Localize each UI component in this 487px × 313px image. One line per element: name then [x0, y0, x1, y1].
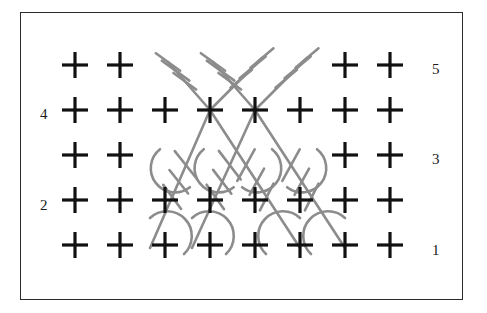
single-crochet-cross-icon [377, 97, 403, 123]
single-crochet-cross-icon [377, 52, 403, 78]
single-crochet-cross-icon [107, 52, 133, 78]
row-label-4: 4 [40, 107, 48, 122]
row-label-2: 2 [40, 198, 48, 213]
single-crochet-cross-icon [107, 97, 133, 123]
treble-crossbar [162, 61, 190, 81]
crochet-chart-figure: 53142 [0, 0, 487, 313]
single-crochet-cross-icon [107, 232, 133, 258]
single-crochet-cross-icon [332, 142, 358, 168]
single-crochet-cross-icon [62, 142, 88, 168]
single-crochet-cross-icon [287, 97, 313, 123]
treble-crossbar [173, 73, 196, 89]
single-crochet-cross-icon [377, 142, 403, 168]
row-label-5: 5 [432, 62, 440, 77]
row-label-1: 1 [432, 243, 440, 258]
crossed-treble-symbol-layer [150, 48, 345, 254]
single-crochet-cross-icon [197, 232, 223, 258]
treble-crossbar [219, 151, 241, 180]
treble-stem-line [255, 110, 345, 248]
treble-top-crossbar [296, 48, 319, 67]
single-crochet-cross-icon [62, 232, 88, 258]
single-crochet-cross-icon [62, 97, 88, 123]
single-crochet-cross-icon [62, 52, 88, 78]
single-crochet-cross-icon [332, 97, 358, 123]
single-crochet-cross-icon [332, 187, 358, 213]
single-crochet-cross-icon [377, 187, 403, 213]
treble-crossbar [207, 61, 235, 81]
single-crochet-cross-icon [152, 97, 178, 123]
treble-top-crossbar [251, 48, 274, 67]
row-label-3: 3 [432, 152, 440, 167]
single-crochet-cross-icon [107, 142, 133, 168]
single-crochet-cross-icon [332, 52, 358, 78]
crossed-treble-lower-arm [150, 110, 210, 254]
single-crochet-cross-icon [107, 187, 133, 213]
single-crochet-cross-icon [242, 232, 268, 258]
single-crochet-cross-icon [377, 232, 403, 258]
chart-canvas [0, 0, 487, 313]
single-crochet-cross-icon [62, 187, 88, 213]
treble-top-crossbar [201, 53, 225, 71]
treble-crossbar [275, 70, 296, 88]
treble-top-crossbar [156, 53, 180, 71]
